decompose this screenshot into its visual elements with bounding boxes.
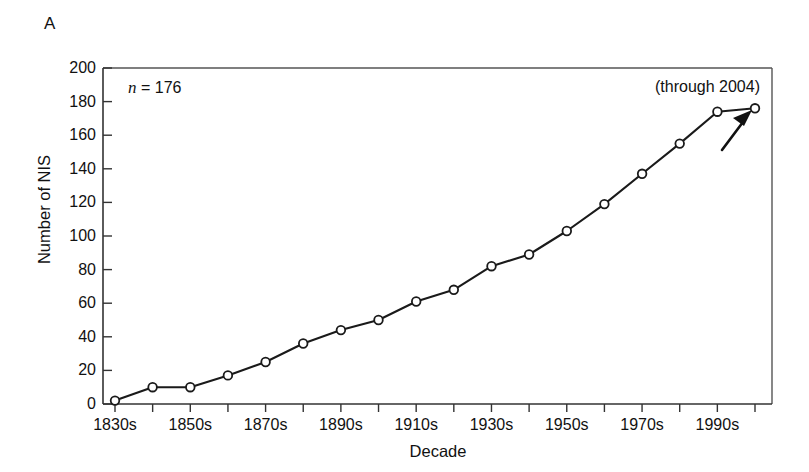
data-point-marker	[337, 326, 346, 335]
data-point-marker	[224, 371, 233, 380]
data-point-marker	[751, 104, 760, 113]
data-point-marker	[450, 286, 459, 295]
data-point-marker	[638, 170, 647, 179]
callout-arrow-icon	[722, 110, 752, 150]
data-point-marker	[261, 358, 270, 367]
data-point-marker	[186, 383, 195, 392]
x-tick-marks	[115, 404, 755, 412]
data-point-marker	[412, 297, 421, 306]
data-point-marker	[299, 339, 308, 348]
data-point-marker	[374, 316, 383, 325]
data-point-marker	[111, 396, 120, 405]
data-point-marker	[713, 107, 722, 116]
data-series-markers	[111, 104, 760, 405]
data-point-marker	[525, 250, 534, 259]
data-point-marker	[675, 139, 684, 148]
data-point-marker	[563, 227, 572, 236]
data-series-line	[115, 108, 755, 400]
axes-frame	[103, 68, 772, 404]
figure-panel-a: A Number of NIS Decade n = 176 (through …	[0, 0, 809, 472]
data-point-marker	[600, 200, 609, 209]
plot-canvas	[0, 0, 809, 472]
data-point-marker	[487, 262, 496, 271]
data-point-marker	[148, 383, 157, 392]
y-tick-marks	[103, 68, 112, 404]
